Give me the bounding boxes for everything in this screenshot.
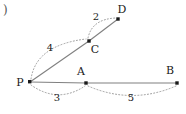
arc-weight-A-B: 5 (128, 93, 134, 103)
node-label-P: P (16, 77, 23, 88)
node-point-B (175, 81, 178, 84)
node-point-A (84, 81, 87, 84)
edge-C-D (89, 19, 118, 41)
node-point-P (28, 80, 31, 83)
node-label-B: B (166, 65, 174, 76)
arc-weight-C-D: 2 (93, 12, 99, 22)
graph-figure: ) P A B C D 3 5 4 2 (0, 0, 186, 114)
arc-weight-P-A: 3 (54, 93, 60, 103)
node-point-D (116, 17, 119, 20)
node-label-C: C (91, 44, 99, 55)
node-label-D: D (118, 4, 127, 15)
edge-P-A (30, 82, 86, 83)
node-label-A: A (77, 66, 85, 77)
arc-weight-P-C: 4 (47, 43, 53, 53)
